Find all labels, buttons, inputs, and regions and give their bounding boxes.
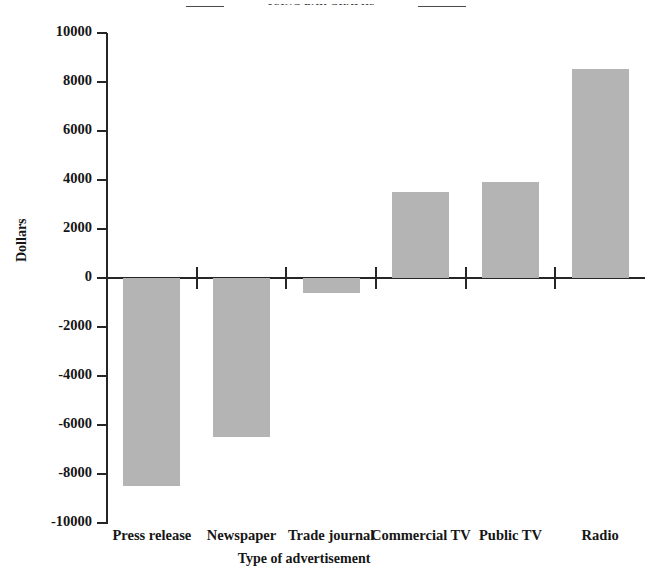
- y-axis-tick: [97, 473, 107, 475]
- bar: [123, 278, 180, 486]
- x-axis-tick: [554, 267, 556, 289]
- bar: [213, 278, 270, 437]
- y-axis-tick: [97, 81, 107, 83]
- y-axis-tick-label: -4000: [30, 366, 92, 383]
- x-axis-tick: [375, 267, 377, 289]
- x-axis-category-label: Radio: [525, 527, 652, 544]
- bar: [303, 278, 360, 293]
- y-axis-tick: [97, 522, 107, 524]
- y-axis-tick-label: 0: [30, 268, 92, 285]
- y-axis-tick: [97, 130, 107, 132]
- y-axis-tick: [97, 32, 107, 34]
- y-axis-tick: [97, 424, 107, 426]
- y-axis-tick: [97, 326, 107, 328]
- y-axis-tick-labels: 1000080006000400020000-2000-4000-6000-80…: [26, 0, 92, 578]
- y-axis-tick: [97, 179, 107, 181]
- x-axis-tick: [285, 267, 287, 289]
- bar: [392, 192, 449, 278]
- bar: [572, 69, 629, 278]
- y-axis-tick: [97, 375, 107, 377]
- x-axis-tick: [196, 267, 198, 289]
- x-axis-title: Type of advertisement: [0, 551, 652, 567]
- x-axis-tick: [465, 267, 467, 289]
- y-axis-tick-label: -2000: [30, 317, 92, 334]
- y-axis-tick: [97, 228, 107, 230]
- y-axis-tick-label: 6000: [30, 121, 92, 138]
- y-axis-tick-label: 4000: [30, 170, 92, 187]
- y-axis-tick-label: -8000: [30, 464, 92, 481]
- y-axis-tick: [97, 277, 107, 279]
- y-axis-tick-label: 2000: [30, 219, 92, 236]
- y-axis-tick-label: 8000: [30, 72, 92, 89]
- bar: [482, 182, 539, 278]
- x-axis-title-text: Type of advertisement: [238, 551, 371, 566]
- y-axis-title: Dollars: [14, 218, 30, 262]
- y-axis-tick-label: 10000: [30, 23, 92, 40]
- bar-chart-figure: 1000080006000400020000-2000-4000-6000-80…: [0, 0, 652, 578]
- y-axis-tick-label: -6000: [30, 415, 92, 432]
